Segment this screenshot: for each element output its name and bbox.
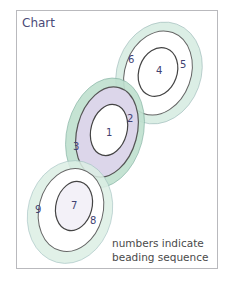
label-7: 7 <box>71 200 77 211</box>
label-5: 5 <box>180 59 186 70</box>
label-3: 3 <box>73 141 79 152</box>
caption-line-1: numbers indicate <box>112 236 222 250</box>
label-8: 8 <box>90 215 96 226</box>
caption-line-2: beading sequence <box>112 250 222 264</box>
caption: numbers indicate beading sequence <box>112 236 222 264</box>
label-2: 2 <box>127 113 133 124</box>
label-9: 9 <box>35 204 41 215</box>
label-4: 4 <box>156 65 162 76</box>
label-6: 6 <box>128 54 134 65</box>
label-1: 1 <box>106 127 112 138</box>
